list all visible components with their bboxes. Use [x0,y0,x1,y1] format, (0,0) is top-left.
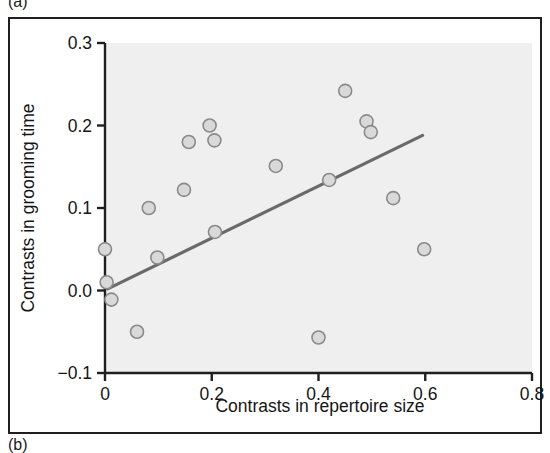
data-point [142,202,155,215]
y-tick-label: 0.0 [68,281,93,301]
data-point [323,173,336,186]
data-point [99,243,112,256]
data-point [131,325,144,338]
data-point [151,251,164,264]
plot-background [105,43,532,373]
y-axis-title: Contrasts in grooming time [18,103,38,312]
y-tick-label: 0.1 [68,198,92,218]
figure-panel-a: (a) −0.10.00.10.20.300.20.40.60.8 Contra… [0,0,550,453]
y-tick-label: 0.2 [68,116,92,136]
data-point [208,225,221,238]
data-point [105,293,118,306]
x-axis-title: Contrasts in repertoire size [215,396,424,416]
x-tick-label: 0 [100,384,110,404]
y-tick-label: 0.3 [68,33,92,53]
plot-area-background [105,43,532,373]
data-point [418,243,431,256]
scatter-chart: −0.10.00.10.20.300.20.40.60.8 Contrasts … [0,0,550,453]
data-point [339,84,352,97]
data-point [387,192,400,205]
data-point [269,159,282,172]
data-point [182,136,195,149]
data-point [364,126,377,139]
panel-label-b: (b) [8,436,28,453]
data-point [208,134,221,147]
y-tick-label: −0.1 [57,363,92,383]
data-point [100,276,113,289]
data-point [312,331,325,344]
data-point [203,119,216,132]
data-point [177,183,190,196]
x-tick-label: 0.8 [520,384,544,404]
